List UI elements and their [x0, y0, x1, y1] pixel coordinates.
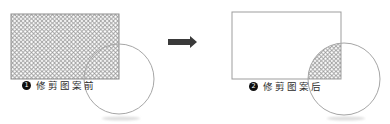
before-caption-label: 修剪图案前	[36, 80, 96, 91]
diagram-canvas	[0, 0, 390, 124]
right-arrow-icon	[168, 36, 197, 48]
after-caption: 2 修剪图案后	[249, 81, 323, 92]
pattern-trim-diagram: 1 修剪图案前 2 修剪图案后	[0, 0, 390, 124]
before-caption: 1 修剪图案前	[22, 80, 96, 91]
step-1-badge: 1	[22, 81, 31, 90]
left-circle-shadow	[102, 117, 140, 121]
before-hatched-rectangle	[11, 14, 119, 79]
right-circle-shadow	[327, 117, 365, 121]
step-2-badge: 2	[249, 82, 258, 91]
after-caption-label: 修剪图案后	[263, 81, 323, 92]
